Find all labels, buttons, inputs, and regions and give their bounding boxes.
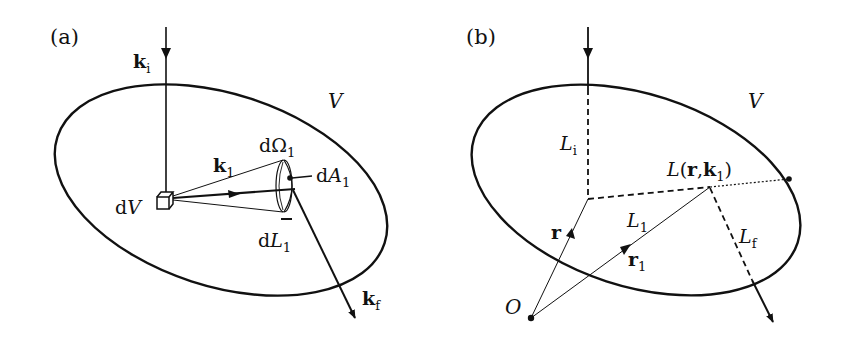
volume-element-cube-icon [157, 192, 173, 209]
vector-r1 [531, 187, 710, 318]
label-dV: dV [115, 196, 143, 218]
boundary-point-dot [786, 176, 792, 182]
volume-ellipse-b [445, 46, 828, 334]
area-element-dot [287, 175, 293, 181]
label-L-i: Li [559, 132, 577, 158]
incident-arrow-icon-b [583, 48, 593, 59]
outgoing-ray-kf [293, 190, 355, 318]
label-L-f: Lf [738, 225, 758, 251]
label-origin: O [505, 295, 521, 319]
panel-b: (b) V Li L(r,k1) L1 Lf O r r1 [445, 25, 828, 334]
label-L-1: L1 [626, 209, 648, 235]
label-dL1: dL1 [258, 229, 291, 255]
label-k-i: ki [133, 50, 150, 76]
label-L-r-k1: L(r,k1) [666, 158, 732, 184]
scattering-diagram: (a) V ki dV k1 dΩ1 [0, 0, 846, 347]
k1-arrow-icon [228, 190, 240, 198]
path-L1-dashed [588, 187, 710, 199]
region-v-label-b: V [748, 89, 765, 113]
outgoing-ray-b [752, 280, 773, 322]
label-r-1: r1 [628, 248, 646, 274]
incident-arrow-icon [161, 48, 171, 59]
panel-b-label: (b) [466, 25, 496, 49]
label-k-f: kf [362, 287, 381, 313]
panel-a-label: (a) [50, 25, 79, 49]
region-v-label-a: V [328, 89, 345, 113]
volume-ellipse-a [28, 46, 414, 335]
label-dOmega1: dΩ1 [259, 134, 295, 160]
panel-a: (a) V ki dV k1 dΩ1 [28, 25, 414, 334]
label-dA1: dA1 [316, 164, 350, 190]
label-k-1: k1 [213, 154, 234, 180]
vector-r [531, 199, 588, 318]
label-r: r [551, 221, 562, 243]
